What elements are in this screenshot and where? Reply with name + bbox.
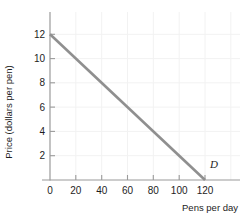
y-axis-title: Price (dollars per pen) <box>3 65 14 158</box>
x-tick-label-60: 60 <box>122 185 134 196</box>
x-tick-label-120: 120 <box>197 185 214 196</box>
y-tick-label-8: 8 <box>39 77 45 88</box>
y-tick-label-12: 12 <box>34 29 46 40</box>
x-tick-label-100: 100 <box>171 185 188 196</box>
y-tick-label-10: 10 <box>34 53 46 64</box>
gridlines-horizontal <box>50 34 240 155</box>
y-axis-ticks <box>50 34 55 155</box>
chart-canvas: 12 10 8 6 4 2 0 20 40 60 80 100 120 D Pr… <box>0 0 245 221</box>
y-tick-labels: 12 10 8 6 4 2 <box>34 29 46 161</box>
y-tick-label-4: 4 <box>39 126 45 137</box>
x-tick-label-20: 20 <box>70 185 82 196</box>
demand-curve-label: D <box>209 158 218 170</box>
demand-curve-chart: 12 10 8 6 4 2 0 20 40 60 80 100 120 D Pr… <box>0 0 245 221</box>
x-tick-label-40: 40 <box>96 185 108 196</box>
gridlines-vertical <box>76 12 231 180</box>
y-tick-label-6: 6 <box>39 102 45 113</box>
x-tick-label-0: 0 <box>47 185 53 196</box>
y-tick-label-2: 2 <box>39 150 45 161</box>
x-tick-labels: 0 20 40 60 80 100 120 <box>47 185 214 196</box>
x-tick-label-80: 80 <box>148 185 160 196</box>
x-axis-title: Pens per day <box>182 202 238 213</box>
x-axis-ticks <box>76 175 205 180</box>
